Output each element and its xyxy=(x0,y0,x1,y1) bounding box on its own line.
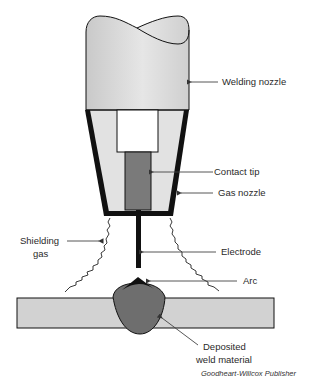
contact-tip-label: Contact tip xyxy=(214,166,259,177)
deposited-weld-label-line1: Deposited xyxy=(203,341,246,352)
shielding-gas-label-line1: Shielding xyxy=(20,235,59,246)
contact-tip xyxy=(125,152,151,210)
gas-nozzle-label: Gas nozzle xyxy=(218,187,266,198)
shielding-gas-label-line2: gas xyxy=(33,248,48,259)
shielding-gas-right xyxy=(170,218,219,291)
shielding-gas-left xyxy=(65,218,110,292)
insulator-block xyxy=(117,110,158,152)
welding-nozzle xyxy=(86,16,189,110)
publisher-credit: Goodheart-Willcox Publisher xyxy=(201,369,296,378)
electrode xyxy=(136,210,141,268)
welding-torch-diagram xyxy=(0,0,323,384)
electrode-label: Electrode xyxy=(221,246,261,257)
welding-nozzle-label: Welding nozzle xyxy=(222,76,286,87)
arc-label: Arc xyxy=(243,275,257,286)
deposited-weld-label-line2: weld material xyxy=(196,354,252,365)
